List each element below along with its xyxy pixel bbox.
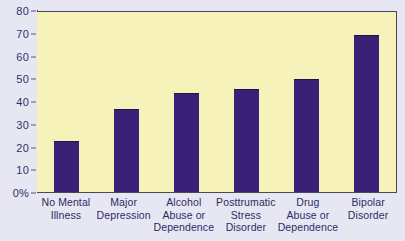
x-axis-label-3: PosttrumaticStressDisorder [215, 196, 277, 241]
x-axis-label-line: Illness [38, 209, 94, 222]
y-axis-tick-mark [31, 102, 36, 103]
bar-5 [354, 35, 379, 192]
x-axis-labels: No MentalIllnessMajorDepressionAlcoholAb… [37, 196, 397, 241]
bars-layer [37, 12, 396, 192]
x-axis-label-line: Dependence [154, 221, 215, 234]
y-axis-tick-label: 60 [16, 51, 29, 63]
x-axis-label-line: Drug [278, 196, 339, 209]
bar-1 [114, 109, 139, 192]
y-axis-tick-label: 10 [16, 164, 29, 176]
x-axis-label-line: No Mental [38, 196, 94, 209]
x-axis-label-5: BipolarDisorder [339, 196, 397, 241]
y-axis-tick-label: 0% [13, 187, 29, 199]
y-axis: 0%1020304050607080 [0, 0, 37, 241]
x-axis-label-line: Disorder [216, 221, 276, 234]
y-axis-tick-mark [31, 79, 36, 80]
x-axis-label-line: Posttrumatic [216, 196, 276, 209]
x-axis-label-2: AlcoholAbuse orDependence [153, 196, 216, 241]
x-axis-label-4: DrugAbuse orDependence [277, 196, 340, 241]
bar-2 [174, 93, 199, 192]
x-axis-label-line: Disorder [340, 209, 396, 222]
bar-4 [294, 79, 319, 192]
bar-slot [37, 12, 97, 192]
y-axis-tick-label: 30 [16, 119, 29, 131]
y-axis-tick-mark [31, 33, 36, 34]
bar-3 [234, 89, 259, 193]
x-axis-label-line: Abuse or [278, 209, 339, 222]
y-axis-tick-mark [31, 11, 36, 12]
bar-slot [97, 12, 157, 192]
x-axis-label-1: MajorDepression [95, 196, 153, 241]
bar-slot [216, 12, 276, 192]
y-axis-tick-mark [31, 124, 36, 125]
y-axis-tick-label: 80 [16, 5, 29, 17]
bar-0 [54, 141, 79, 192]
plot-area [37, 11, 397, 193]
y-axis-tick-label: 40 [16, 96, 29, 108]
x-axis-label-line: Major [96, 196, 152, 209]
y-axis-tick-mark [31, 193, 36, 194]
y-axis-tick-label: 70 [16, 28, 29, 40]
x-axis-label-line: Alcohol [154, 196, 215, 209]
y-axis-tick-mark [31, 56, 36, 57]
x-axis-label-line: Stress [216, 209, 276, 222]
x-axis-label-line: Depression [96, 209, 152, 222]
x-axis-label-line: Bipolar [340, 196, 396, 209]
y-axis-tick-mark [31, 170, 36, 171]
x-axis-label-line: Abuse or [154, 209, 215, 222]
y-axis-tick-label: 20 [16, 142, 29, 154]
bar-chart-figure: 0%1020304050607080 No MentalIllnessMajor… [0, 0, 405, 241]
x-axis-label-line: Dependence [278, 221, 339, 234]
bar-slot [336, 12, 396, 192]
y-axis-tick-mark [31, 147, 36, 148]
y-axis-tick-label: 50 [16, 73, 29, 85]
bar-slot [276, 12, 336, 192]
bar-slot [157, 12, 217, 192]
x-axis-label-0: No MentalIllness [37, 196, 95, 241]
